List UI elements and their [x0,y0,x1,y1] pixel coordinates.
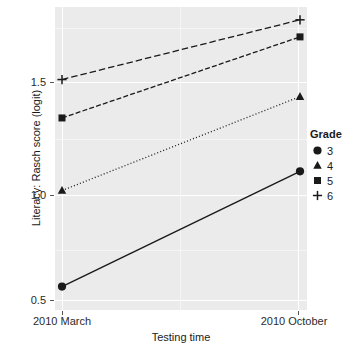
series-line-grade-4 [62,97,300,191]
legend-item-grade-6[interactable]: 6 [310,188,352,203]
y-axis-tick-labels: 1.5 1.0 0.5 [12,0,46,350]
x-tick-label-march: 2010 March [33,315,91,327]
data-point-grade-6-2010-march [57,75,66,84]
x-tick-label-october: 2010 October [261,315,328,327]
series-line-grade-5 [62,37,300,118]
filled-square-marker-icon [310,173,325,188]
data-point-grade-6-2010-october [295,15,304,24]
legend-item-label: 5 [327,175,333,187]
data-point-grade-5-2010-march [59,114,66,121]
legend-title: Grade [310,128,352,140]
chart-container: Literacy: Rasch score (logit) 1.5 1.0 0.… [0,0,352,350]
data-point-grade-3-2010-october [296,167,304,175]
y-tick-label-3: 0.5 [12,294,46,306]
legend-item-grade-3[interactable]: 3 [310,143,352,158]
series-line-grade-3 [62,171,300,286]
y-tick-mark-3 [50,300,54,301]
legend-item-label: 6 [327,190,333,202]
x-axis-title: Testing time [55,331,307,343]
series-lines-group [62,20,300,287]
y-tick-label-2: 1.0 [12,189,46,201]
legend-item-grade-5[interactable]: 5 [310,173,352,188]
plot-panel [55,7,307,310]
filled-circle-marker-icon [310,143,325,158]
filled-triangle-marker-icon [310,158,325,173]
y-tick-mark-2 [50,195,54,196]
y-tick-mark-1 [50,82,54,83]
y-tick-label-1: 1.5 [12,76,46,88]
data-point-grade-5-2010-october [297,33,304,40]
plus-marker-icon [310,188,325,203]
legend-items: 3456 [310,143,352,203]
data-point-grade-3-2010-march [58,282,66,290]
series-layer [55,7,307,310]
data-point-grade-4-2010-october [296,92,304,100]
series-markers-group [57,15,304,290]
legend-item-grade-4[interactable]: 4 [310,158,352,173]
legend-item-label: 4 [327,160,333,172]
legend: Grade 3456 [310,128,352,203]
data-point-grade-4-2010-march [58,186,66,194]
legend-item-label: 3 [327,145,333,157]
